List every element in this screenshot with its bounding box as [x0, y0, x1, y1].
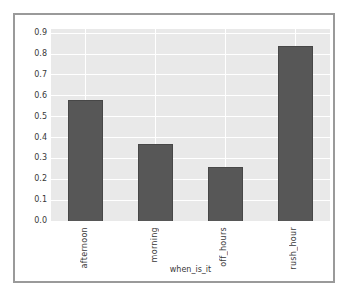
y-tick-label-0.1: 0.1: [19, 196, 47, 204]
bar-rush_hour: [278, 46, 313, 221]
y-tick-label-0.8: 0.8: [19, 50, 47, 58]
x-tick-label-rush_hour: rush_hour: [289, 227, 298, 270]
y-tick-label-0.9: 0.9: [19, 29, 47, 37]
bar-off_hours: [208, 167, 243, 221]
y-tick-label-0.2: 0.2: [19, 175, 47, 183]
y-tick-label-0.5: 0.5: [19, 113, 47, 121]
y-tick-label-0.6: 0.6: [19, 92, 47, 100]
chart-figure: 0.00.10.20.30.40.50.60.70.80.9 afternoon…: [13, 13, 335, 283]
bar-morning: [138, 144, 173, 221]
x-tick-label-morning: morning: [150, 227, 159, 262]
x-axis-title: when_is_it: [51, 265, 330, 274]
y-tick-label-0.3: 0.3: [19, 154, 47, 162]
y-tick-label-0.4: 0.4: [19, 134, 47, 142]
x-tick-label-afternoon: afternoon: [80, 227, 89, 268]
y-tick-label-0.7: 0.7: [19, 71, 47, 79]
y-tick-label-0.0: 0.0: [19, 217, 47, 225]
plot-area: [51, 29, 330, 221]
bar-afternoon: [68, 100, 103, 221]
screenshot-root: 0.00.10.20.30.40.50.60.70.80.9 afternoon…: [0, 0, 355, 307]
x-tick-label-off_hours: off_hours: [219, 227, 228, 267]
h-gridline-0.9: [51, 33, 330, 34]
